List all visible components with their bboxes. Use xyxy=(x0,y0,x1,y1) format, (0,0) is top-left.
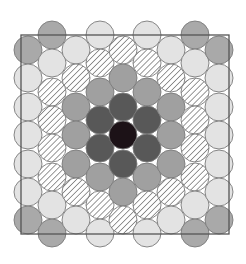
circle-ring-3-hatched xyxy=(109,206,137,234)
circle-ring-2 xyxy=(62,150,90,178)
circle-ring-4 xyxy=(14,150,42,178)
circle-ring-3-hatched xyxy=(157,178,185,206)
circle-ring-3-hatched xyxy=(38,78,66,106)
circles-layer xyxy=(14,21,233,247)
circle-ring-2 xyxy=(133,163,161,191)
circle-ring-4 xyxy=(14,64,42,92)
circle-ring-2 xyxy=(133,78,161,106)
circle-ring-2 xyxy=(109,64,137,92)
circle-ring-4 xyxy=(62,36,90,64)
circle-ring-4 xyxy=(14,178,42,206)
circle-corner xyxy=(14,206,42,234)
circle-ring-3-hatched xyxy=(109,36,137,64)
circle-ring-3-hatched xyxy=(38,134,66,162)
circle-ring-1 xyxy=(133,134,161,162)
circle-ring-1 xyxy=(109,150,137,178)
circle-ring-4 xyxy=(38,49,66,77)
circle-ring-3-hatched xyxy=(133,49,161,77)
hex-packing-diagram xyxy=(0,0,246,264)
circle-corner xyxy=(14,36,42,64)
circle-ring-3-hatched xyxy=(38,106,66,134)
circle-ring-4 xyxy=(38,191,66,219)
circle-ring-4 xyxy=(157,36,185,64)
circle-ring-4 xyxy=(181,49,209,77)
circle-ring-2 xyxy=(62,93,90,121)
circle-ring-2 xyxy=(157,150,185,178)
circle-ring-3-hatched xyxy=(181,78,209,106)
circle-ring-4 xyxy=(14,93,42,121)
circle-ring-2 xyxy=(157,93,185,121)
circle-ring-1 xyxy=(109,93,137,121)
circle-ring-4 xyxy=(157,206,185,234)
circle-ring-2 xyxy=(157,121,185,149)
circle-ring-3-hatched xyxy=(181,106,209,134)
circle-ring-3-hatched xyxy=(38,163,66,191)
circle-ring-3-hatched xyxy=(181,163,209,191)
circle-ring-4 xyxy=(62,206,90,234)
circle-ring-2 xyxy=(109,178,137,206)
circle-ring-3-hatched xyxy=(157,64,185,92)
circle-ring-1 xyxy=(133,106,161,134)
circle-ring-2 xyxy=(62,121,90,149)
circle-ring-3-hatched xyxy=(133,191,161,219)
circle-ring-4 xyxy=(133,219,161,247)
circle-center xyxy=(109,121,137,149)
circle-corner xyxy=(38,219,66,247)
diagram-canvas xyxy=(0,0,246,264)
circle-corner xyxy=(181,219,209,247)
circle-ring-3-hatched xyxy=(62,178,90,206)
circle-ring-3-hatched xyxy=(181,134,209,162)
circle-ring-4 xyxy=(14,121,42,149)
circle-ring-3-hatched xyxy=(62,64,90,92)
circle-ring-4 xyxy=(181,191,209,219)
